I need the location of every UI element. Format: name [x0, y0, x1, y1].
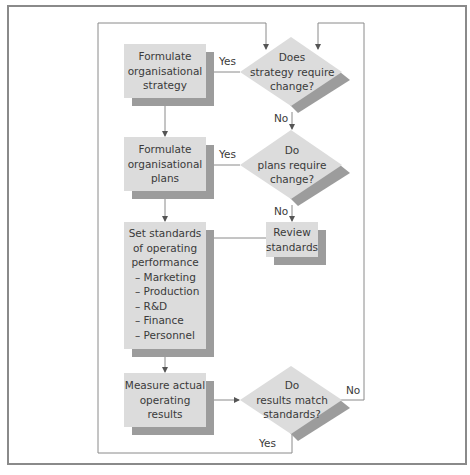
strategy-yes-label: Yes — [219, 55, 236, 67]
measure-results-box — [124, 373, 206, 427]
plans-no-label: No — [274, 205, 288, 217]
formulate-plans-box — [124, 137, 206, 191]
strategy-decision-diamond — [240, 37, 342, 106]
plans-decision-diamond — [240, 130, 342, 199]
formulate-strategy-box — [124, 44, 206, 98]
results-yes-label: Yes — [259, 437, 276, 449]
review-standards-box — [266, 222, 318, 257]
plans-yes-label: Yes — [219, 148, 236, 160]
results-no-label: No — [346, 384, 360, 396]
set-standards-box — [124, 222, 206, 349]
strategy-no-label: No — [274, 112, 288, 124]
connectors-layer — [0, 0, 470, 475]
results-decision-diamond — [240, 366, 342, 434]
